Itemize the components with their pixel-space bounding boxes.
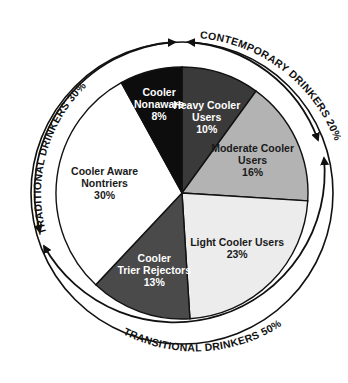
segmentation-pie-chart: Heavy CoolerUsers10%Moderate CoolerUsers…	[0, 0, 348, 383]
